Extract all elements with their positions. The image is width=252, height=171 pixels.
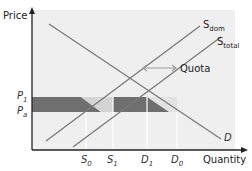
quantity-tick-d0: D0 [171, 154, 184, 168]
supply-demand-quota-diagram: Quota Sdom Stotal D Price Quantity P1 Pa… [0, 0, 252, 171]
price-tick-pa: Pa [17, 105, 27, 119]
x-axis-label: Quantity [203, 154, 246, 165]
quota-label: Quota [180, 63, 210, 74]
y-axis-label: Price [3, 10, 27, 21]
quantity-tick-d1: D1 [141, 154, 153, 168]
demand-label: D [224, 132, 232, 143]
quantity-tick-s1: S1 [107, 154, 118, 168]
price-tick-p1: P1 [17, 90, 28, 104]
quantity-tick-s0: S0 [81, 154, 92, 168]
